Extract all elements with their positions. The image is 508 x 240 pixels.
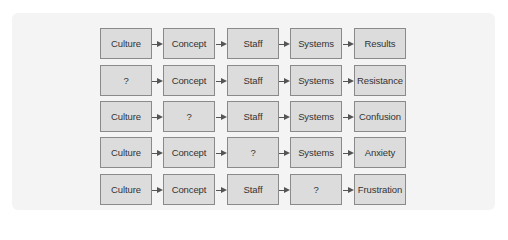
arrow-right-icon (343, 113, 354, 121)
missing-element-box: ? (227, 137, 279, 168)
box-label: Staff (244, 75, 263, 86)
arrow-right-icon (279, 40, 290, 48)
element-box: Systems (290, 65, 342, 96)
element-box: Concept (163, 137, 215, 168)
box-label: ? (123, 75, 128, 86)
arrow-right-icon (279, 186, 290, 194)
arrow-right-icon (216, 113, 227, 121)
element-box: Staff (227, 28, 279, 59)
outcome-box: Resistance (354, 65, 406, 96)
box-label: Results (365, 38, 396, 49)
box-label: Systems (298, 38, 334, 49)
box-label: Culture (111, 147, 141, 158)
arrow-right-icon (216, 77, 227, 85)
arrow-right-icon (343, 77, 354, 85)
element-box: Staff (227, 65, 279, 96)
arrow-right-icon (152, 149, 163, 157)
element-box: Systems (290, 28, 342, 59)
box-label: Resistance (357, 75, 403, 86)
arrow-right-icon (279, 149, 290, 157)
outcome-box: Anxiety (354, 137, 406, 168)
box-label: Systems (298, 75, 334, 86)
box-label: ? (313, 184, 318, 195)
element-box: Systems (290, 137, 342, 168)
box-label: ? (250, 147, 255, 158)
box-label: Systems (298, 147, 334, 158)
box-label: Staff (244, 184, 263, 195)
element-box: Concept (163, 65, 215, 96)
missing-element-box: ? (290, 174, 342, 205)
arrow-right-icon (343, 40, 354, 48)
box-label: Staff (244, 111, 263, 122)
box-label: Systems (298, 111, 334, 122)
element-box: Culture (100, 174, 152, 205)
arrow-right-icon (343, 149, 354, 157)
arrow-right-icon (216, 186, 227, 194)
box-label: Concept (172, 75, 207, 86)
box-label: Concept (172, 147, 207, 158)
element-box: Culture (100, 137, 152, 168)
box-label: Frustration (358, 184, 402, 195)
element-box: Concept (163, 174, 215, 205)
box-label: Anxiety (365, 147, 395, 158)
arrow-right-icon (152, 40, 163, 48)
arrow-right-icon (343, 186, 354, 194)
outcome-box: Results (354, 28, 406, 59)
arrow-right-icon (279, 77, 290, 85)
box-label: Staff (244, 38, 263, 49)
arrow-right-icon (216, 40, 227, 48)
outcome-box: Frustration (354, 174, 406, 205)
element-box: Culture (100, 101, 152, 132)
arrow-right-icon (152, 113, 163, 121)
box-label: ? (186, 111, 191, 122)
element-box: Systems (290, 101, 342, 132)
arrow-right-icon (279, 113, 290, 121)
element-box: Staff (227, 174, 279, 205)
arrow-right-icon (216, 149, 227, 157)
box-label: Concept (172, 38, 207, 49)
box-label: Culture (111, 184, 141, 195)
element-box: Culture (100, 28, 152, 59)
arrow-right-icon (152, 77, 163, 85)
missing-element-box: ? (163, 101, 215, 132)
element-box: Concept (163, 28, 215, 59)
box-label: Culture (111, 38, 141, 49)
element-box: Staff (227, 101, 279, 132)
arrow-right-icon (152, 186, 163, 194)
missing-element-box: ? (100, 65, 152, 96)
box-label: Concept (172, 184, 207, 195)
box-label: Culture (111, 111, 141, 122)
outcome-box: Confusion (354, 101, 406, 132)
box-label: Confusion (359, 111, 401, 122)
